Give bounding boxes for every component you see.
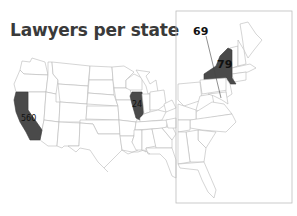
inset-state-pennsylvania — [200, 78, 228, 94]
inset-state-florida — [178, 162, 216, 198]
inset-map — [178, 22, 262, 198]
inset-state-tennessee — [178, 120, 190, 132]
inset-state-connecticut — [232, 72, 246, 82]
label-illinois: 24 — [132, 100, 142, 109]
state-kansas — [86, 106, 119, 120]
label-california: 560 — [21, 114, 36, 123]
inset-state-kentucky — [178, 104, 196, 120]
state-nebraska — [87, 93, 118, 106]
state-montana — [52, 62, 90, 86]
state-new-mexico — [57, 122, 80, 148]
inset-frame — [176, 11, 292, 203]
state-florida — [146, 148, 176, 178]
label-new-york: 79 — [217, 58, 232, 71]
main-map — [14, 58, 176, 178]
state-utah — [44, 92, 60, 122]
label-dc: 69 — [193, 25, 208, 38]
state-arkansas — [119, 120, 136, 136]
state-north-dakota — [89, 66, 113, 80]
state-south-dakota — [88, 80, 114, 95]
state-wyoming — [58, 84, 88, 104]
state-washington — [20, 58, 48, 75]
state-north-carolina — [166, 118, 176, 128]
state-ohio — [150, 90, 166, 110]
state-colorado — [59, 102, 87, 122]
us-map: 560 24 79 69 — [0, 0, 297, 216]
